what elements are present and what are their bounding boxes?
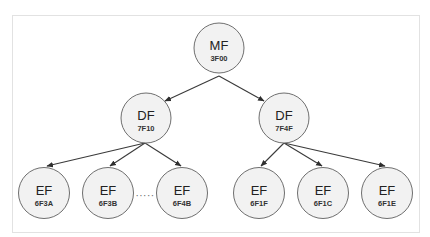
node-type-label: MF xyxy=(210,38,229,53)
file-hierarchy-diagram: MF 3F00 DF 7F10 DF 7F4F EF 6F3A EF 6F3B … xyxy=(0,0,430,237)
node-type-label: EF xyxy=(174,183,191,198)
node-id-label: 6F1E xyxy=(378,199,396,208)
node-id-label: 6F1F xyxy=(250,199,268,208)
node-id-label: 7F4F xyxy=(275,124,293,133)
node-ef-6f1e: EF 6F1E xyxy=(362,168,413,219)
node-ef-6f1c: EF 6F1C xyxy=(298,168,349,219)
node-mf-3f00: MF 3F00 xyxy=(194,23,244,73)
node-id-label: 6F4B xyxy=(173,199,192,208)
node-ef-6f3b: EF 6F3B xyxy=(83,168,134,219)
node-id-label: 6F3A xyxy=(35,199,54,208)
node-ef-6f1f: EF 6F1F xyxy=(234,168,285,219)
node-type-label: EF xyxy=(36,183,53,198)
node-type-label: EF xyxy=(315,183,332,198)
node-id-label: 7F10 xyxy=(137,124,154,133)
ellipsis-more-files: ····· xyxy=(135,190,154,201)
node-type-label: EF xyxy=(251,183,268,198)
node-type-label: EF xyxy=(379,183,396,198)
node-ef-6f3a: EF 6F3A xyxy=(19,168,70,219)
node-id-label: 6F1C xyxy=(314,199,333,208)
node-id-label: 3F00 xyxy=(210,54,227,63)
node-type-label: EF xyxy=(100,183,117,198)
node-type-label: DF xyxy=(275,108,292,123)
node-ef-6f4b: EF 6F4B xyxy=(157,168,208,219)
node-type-label: DF xyxy=(137,108,154,123)
node-df-7f10: DF 7F10 xyxy=(121,93,171,143)
node-df-7f4f: DF 7F4F xyxy=(259,93,309,143)
node-id-label: 6F3B xyxy=(99,199,118,208)
